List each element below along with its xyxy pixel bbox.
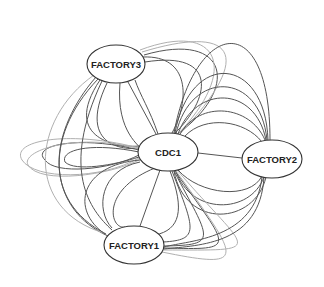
network-graph: FACTORY3 CDC1 FACTORY2 FACTORY1	[0, 0, 324, 287]
nodes-layer: FACTORY3 CDC1 FACTORY2 FACTORY1	[87, 45, 302, 264]
node-factory2-label: FACTORY2	[247, 154, 297, 165]
node-factory1-label: FACTORY1	[109, 240, 160, 251]
edge	[64, 147, 139, 166]
edge	[155, 171, 178, 235]
edge	[135, 80, 158, 134]
edge	[85, 160, 140, 234]
edge	[140, 170, 160, 226]
node-factory3[interactable]: FACTORY3	[87, 45, 145, 83]
edge	[198, 153, 242, 158]
edge	[185, 123, 262, 142]
edge	[178, 170, 262, 192]
edge	[120, 83, 142, 150]
edge	[180, 111, 265, 140]
node-factory1[interactable]: FACTORY1	[104, 226, 164, 264]
node-cdc1-label: CDC1	[155, 147, 182, 158]
edge	[163, 171, 190, 242]
node-factory3-label: FACTORY3	[91, 59, 141, 70]
edge	[128, 82, 156, 134]
node-factory2[interactable]: FACTORY2	[242, 140, 302, 178]
node-cdc1[interactable]: CDC1	[138, 133, 198, 171]
edge	[103, 162, 140, 228]
edge	[113, 168, 155, 227]
